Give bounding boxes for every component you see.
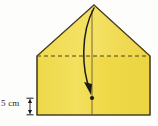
height-measurement-label: 5 cm xyxy=(1,98,20,109)
figure-canvas: 5 cm xyxy=(0,0,158,126)
measurement-arrowhead-down xyxy=(28,110,32,114)
height-measurement-arrow xyxy=(27,98,34,115)
folded-paper-diagram xyxy=(0,0,158,126)
measurement-arrowhead-up xyxy=(28,99,32,103)
paper-roof-facet xyxy=(37,5,150,56)
fold-target-point xyxy=(90,96,94,100)
